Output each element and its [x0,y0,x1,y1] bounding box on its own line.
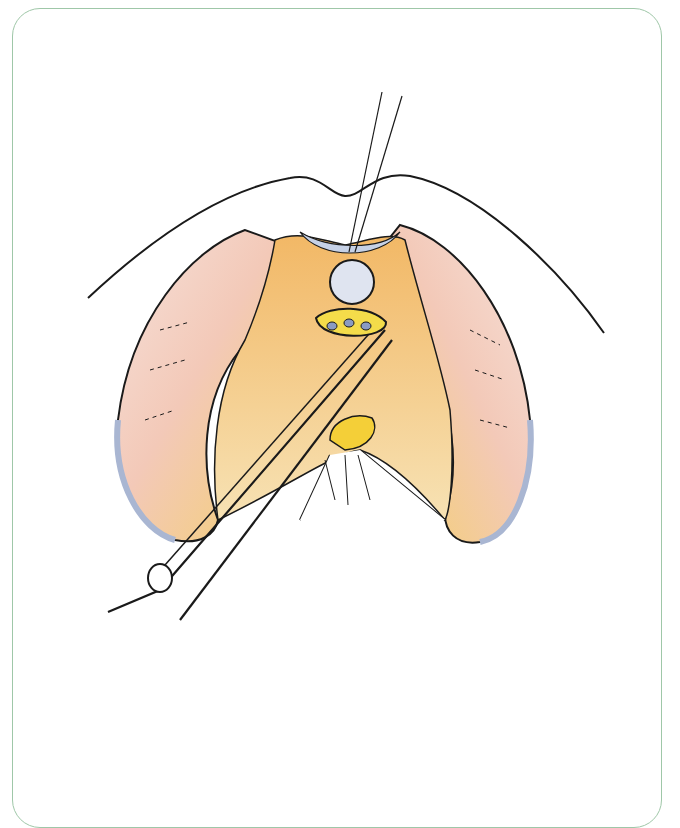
grasped-tissue [330,260,374,304]
suture-thread [349,92,382,252]
